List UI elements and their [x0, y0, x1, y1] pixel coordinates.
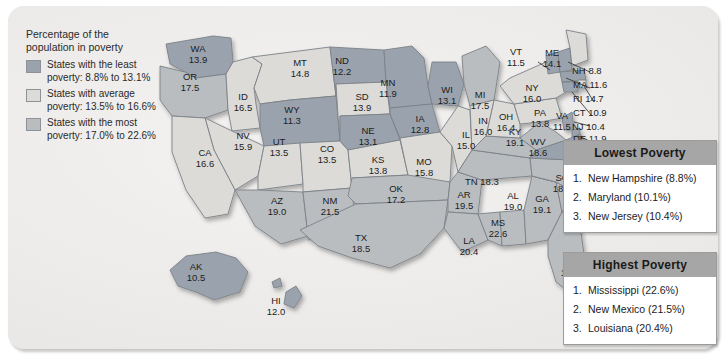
state-abbr: LA	[439, 236, 499, 247]
state-label-PA: PA13.8	[510, 108, 570, 129]
state-label-MN: MN11.9	[358, 78, 418, 99]
state-value: 18.5	[331, 244, 391, 255]
state-value: 10.9	[588, 107, 607, 118]
list-item-text: Mississippi (22.6%)	[588, 284, 678, 296]
state-abbr: NJ	[572, 121, 584, 132]
state-value: 13.9	[332, 103, 392, 114]
list-item-number: 1.	[573, 284, 582, 297]
state-abbr: OK	[366, 184, 426, 195]
state-abbr: TX	[331, 233, 391, 244]
state-label-TN: TN 18.3	[465, 177, 499, 188]
state-label-MO: MO15.8	[394, 157, 454, 178]
state-value: 11.3	[262, 116, 322, 127]
state-label-WY: WY11.3	[262, 105, 322, 126]
legend-label-average-line2: poverty: 13.5% to 16.6%	[47, 101, 156, 112]
state-abbr: WA	[168, 44, 228, 55]
state-value: 15.8	[394, 168, 454, 179]
legend-label-average: States with average poverty: 13.5% to 16…	[47, 88, 156, 113]
state-abbr: NE	[338, 126, 398, 137]
state-value: 17.5	[160, 83, 220, 94]
lowest-poverty-body: 1.New Hampshire (8.8%) 2.Maryland (10.1%…	[564, 165, 716, 232]
state-value: 12.0	[246, 307, 306, 318]
state-label-CA: CA16.6	[175, 148, 235, 169]
state-value: 21.5	[300, 207, 360, 218]
legend-swatch-least	[26, 60, 41, 73]
lowest-poverty-header: Lowest Poverty	[564, 141, 716, 165]
legend-label-most-line2: poverty: 17.0% to 22.6%	[47, 130, 156, 141]
legend-swatch-average	[26, 89, 41, 102]
list-item: 2.Maryland (10.1%)	[573, 191, 707, 204]
state-label-NH: NH 8.8	[572, 66, 602, 77]
state-abbr: CT	[573, 107, 586, 118]
state-label-HI: HI12.0	[246, 296, 306, 317]
list-item-text: New Hampshire (8.8%)	[588, 172, 697, 184]
list-item-text: New Mexico (21.5%)	[588, 303, 685, 315]
list-item-number: 2.	[573, 303, 582, 316]
state-abbr: CO	[297, 144, 357, 155]
legend-label-most: States with the most poverty: 17.0% to 2…	[47, 117, 156, 142]
legend-item-most: States with the most poverty: 17.0% to 2…	[26, 117, 191, 142]
list-item-text: Maryland (10.1%)	[588, 191, 671, 203]
state-label-CT: CT 10.9	[573, 108, 607, 119]
legend-title-line2: population in poverty	[26, 41, 123, 53]
state-label-MI: MI17.5	[450, 90, 510, 111]
list-item-number: 3.	[573, 210, 582, 223]
list-item-text: Louisiana (20.4%)	[588, 322, 673, 334]
state-value: 11.9	[358, 89, 418, 100]
state-abbr: RI	[573, 93, 583, 104]
lowest-poverty-box: Lowest Poverty 1.New Hampshire (8.8%) 2.…	[563, 140, 717, 233]
list-item: 1.New Hampshire (8.8%)	[573, 172, 707, 185]
state-abbr: NH	[572, 65, 586, 76]
list-item: 1.Mississippi (22.6%)	[573, 284, 707, 297]
state-abbr: ND	[312, 56, 372, 67]
legend-label-most-line1: States with the most	[47, 117, 137, 128]
state-value: 8.8	[588, 65, 601, 76]
state-abbr: AZ	[247, 196, 307, 207]
poverty-map-figure: Percentage of the population in poverty …	[0, 0, 726, 355]
state-value: 20.4	[439, 247, 499, 258]
legend-title-line1: Percentage of the	[26, 28, 109, 40]
state-abbr: ID	[213, 92, 273, 103]
state-abbr: WV	[508, 137, 568, 148]
highest-poverty-box: Highest Poverty 1.Mississippi (22.6%) 2.…	[563, 252, 717, 345]
state-abbr: WY	[262, 105, 322, 116]
state-value: 13.9	[168, 55, 228, 66]
list-item-number: 2.	[573, 191, 582, 204]
state-value: 19.0	[247, 207, 307, 218]
state-abbr: MA	[573, 79, 587, 90]
state-value: 12.2	[312, 67, 372, 78]
state-label-NM: NM21.5	[300, 196, 360, 217]
state-label-AK: AK10.5	[166, 262, 226, 283]
state-abbr: MI	[450, 90, 510, 101]
state-label-AZ: AZ19.0	[247, 196, 307, 217]
state-value: 14.7	[585, 93, 604, 104]
list-item: 3.New Jersey (10.4%)	[573, 210, 707, 223]
list-item-number: 3.	[573, 322, 582, 335]
state-label-WA: WA13.9	[168, 44, 228, 65]
highest-poverty-header: Highest Poverty	[564, 253, 716, 277]
state-value: 10.4	[586, 121, 605, 132]
state-abbr: MS	[468, 218, 528, 229]
legend-title: Percentage of the population in poverty	[26, 28, 191, 54]
list-item: 3.Louisiana (20.4%)	[573, 322, 707, 335]
state-abbr: TN	[465, 176, 478, 187]
state-label-NJ: NJ 10.4	[572, 122, 605, 133]
state-value: 17.2	[366, 195, 426, 206]
state-value: 16.0	[502, 94, 562, 105]
state-label-LA: LA20.4	[439, 236, 499, 257]
state-abbr: ME	[522, 48, 582, 59]
legend-label-average-line1: States with average	[47, 88, 135, 99]
state-abbr: CA	[175, 148, 235, 159]
state-abbr: IA	[390, 114, 450, 125]
state-label-NY: NY16.0	[502, 83, 562, 104]
state-label-OR: OR17.5	[160, 72, 220, 93]
state-value: 18.3	[480, 176, 499, 187]
legend-label-least: States with the least poverty: 8.8% to 1…	[47, 59, 150, 84]
list-item: 2.New Mexico (21.5%)	[573, 303, 707, 316]
state-label-OK: OK17.2	[366, 184, 426, 205]
state-shape-HI-small-1	[272, 278, 282, 288]
state-abbr: PA	[510, 108, 570, 119]
state-abbr: MN	[358, 78, 418, 89]
state-value: 17.5	[450, 101, 510, 112]
state-value: 11.6	[589, 79, 607, 90]
